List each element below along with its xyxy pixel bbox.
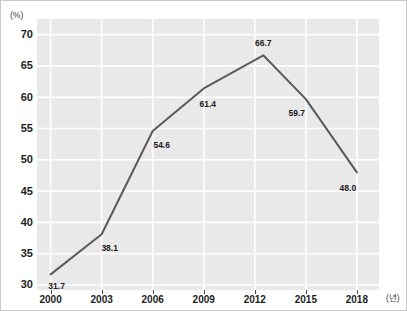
data-point-label: 54.6 [153,140,170,150]
y-tick-label: 60 [5,92,33,103]
data-series-line [37,19,379,290]
data-point-label: 48.0 [340,183,357,193]
data-point-label: 31.7 [48,281,65,291]
y-tick-label: 70 [5,29,33,40]
y-tick-label: 50 [5,154,33,165]
line-chart-figure: (%) (년) 706560555045403530 2000200320062… [0,0,407,311]
y-tick-label: 65 [5,60,33,71]
data-point-label: 66.7 [255,38,272,48]
x-tick-label: 2009 [193,294,215,305]
y-tick-label: 55 [5,123,33,134]
y-axis-tick-labels: 706560555045403530 [1,1,33,311]
y-tick-label: 45 [5,186,33,197]
data-point-label: 38.1 [101,243,118,253]
x-tick-label: 2003 [91,294,113,305]
data-point-label: 59.7 [289,108,306,118]
x-tick-label: 2006 [142,294,164,305]
x-axis-unit-label: (년) [386,291,400,303]
y-tick-label: 30 [5,279,33,290]
y-tick-label: 40 [5,217,33,228]
plot-area [37,19,379,290]
x-tick-label: 2000 [39,294,61,305]
data-point-label: 61.4 [199,99,216,109]
x-tick-label: 2012 [244,294,266,305]
y-tick-label: 35 [5,248,33,259]
x-tick-label: 2018 [346,294,368,305]
x-tick-label: 2015 [295,294,317,305]
